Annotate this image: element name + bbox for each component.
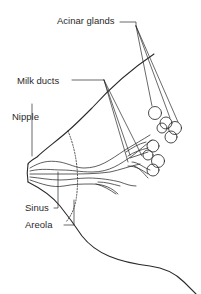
breast-anatomy-diagram: Acinar glands Milk ducts Nipple Sinus Ar… xyxy=(0,0,201,294)
areola-boundary xyxy=(66,131,78,222)
label-nipple: Nipple xyxy=(12,112,39,122)
milk-ducts-drawing xyxy=(30,135,152,194)
label-sinus: Sinus xyxy=(25,203,49,213)
label-acinar-glands: Acinar glands xyxy=(57,16,115,26)
label-areola: Areola xyxy=(25,220,52,230)
leader-lines xyxy=(32,22,178,225)
breast-outline-lower xyxy=(28,182,196,294)
breast-outline-upper xyxy=(28,54,154,164)
nipple-outline xyxy=(27,164,28,182)
diagram-drawing xyxy=(0,0,201,294)
label-milk-ducts: Milk ducts xyxy=(17,76,59,86)
